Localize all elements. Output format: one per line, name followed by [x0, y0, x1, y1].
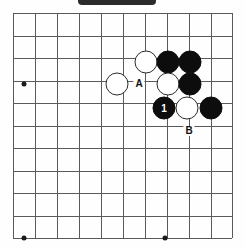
board-marker-b[interactable]: B [183, 126, 194, 136]
go-board[interactable]: 1AB [0, 0, 246, 250]
stone-black-b2[interactable] [179, 51, 202, 74]
stone-white-w4[interactable] [176, 97, 199, 120]
grid-line-horizontal-0 [13, 13, 232, 14]
stone-black-b4[interactable]: 1 [153, 97, 176, 120]
stone-white-w3[interactable] [157, 73, 180, 96]
stone-black-b3[interactable] [179, 73, 202, 96]
grid-line-horizontal-9 [13, 216, 232, 217]
stone-white-w2[interactable] [135, 51, 158, 74]
board-marker-a[interactable]: A [133, 79, 144, 89]
star-point-0 [22, 82, 27, 87]
grid-line-vertical-10 [232, 13, 233, 238]
go-diagram-figure: 1AB [0, 0, 246, 250]
grid-line-horizontal-10 [13, 238, 232, 239]
grid-line-horizontal-8 [13, 193, 232, 194]
star-point-1 [22, 236, 27, 241]
grid-line-horizontal-6 [13, 148, 232, 149]
star-point-2 [163, 236, 168, 241]
grid-line-horizontal-7 [13, 171, 232, 172]
stone-white-w1[interactable] [106, 73, 129, 96]
stone-black-b5[interactable] [200, 97, 223, 120]
stone-black-b1[interactable] [157, 51, 180, 74]
grid-line-horizontal-1 [13, 36, 232, 37]
grid-line-horizontal-5 [13, 126, 232, 127]
stone-move-number: 1 [161, 103, 167, 113]
